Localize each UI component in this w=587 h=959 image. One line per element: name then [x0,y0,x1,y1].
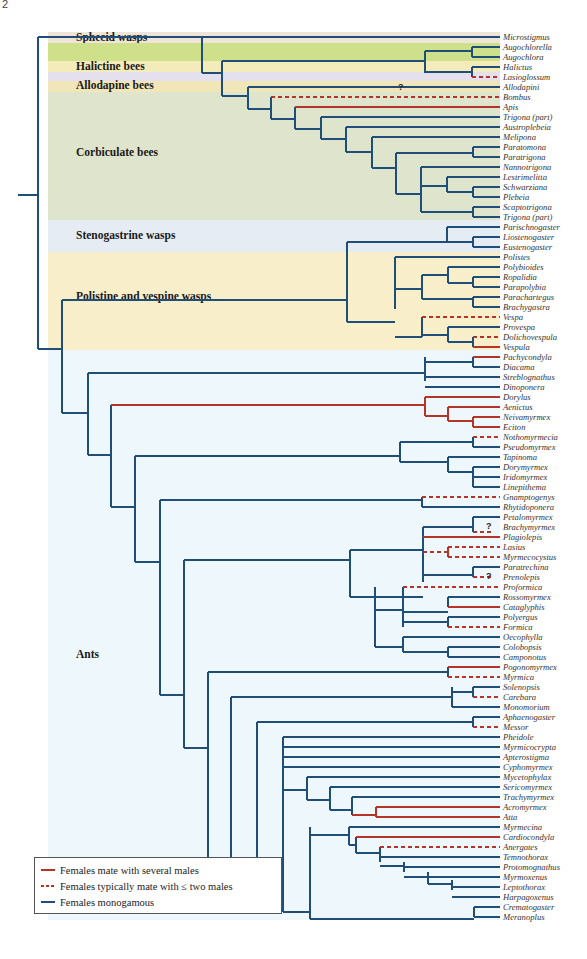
question-mark: ? [486,571,492,581]
taxon-label: Melipona [503,132,536,142]
taxon-label: Plebeia [503,192,529,202]
taxon-label: Pachycondyla [503,352,552,362]
taxon-label: Polybioides [503,262,544,272]
taxon-label: Dorymyrmex [503,462,548,472]
taxon-label: Neivamyrmex [503,412,550,422]
taxon-label: Polyergus [503,612,538,622]
taxon-label: Myrmica [503,672,534,682]
taxon-label: Mycetophylax [503,772,551,782]
taxon-label: Myrmecocystus [503,552,556,562]
taxon-label: Harpagoxenus [503,892,554,902]
taxon-label: Parapolybia [503,282,546,292]
taxon-label: Linepithema [503,482,546,492]
taxon-label: Pogonomyrmex [503,662,557,672]
taxon-label: Nannotrigona [503,162,551,172]
taxon-label: Augochlorella [503,42,552,52]
taxon-label: Nothomyrmecia [503,432,558,442]
phylogenetic-tree [0,0,587,959]
taxon-label: Streblognathus [503,372,555,382]
taxon-label: Eustenogaster [503,242,552,252]
taxon-label: Solenopsis [503,682,540,692]
taxon-label: Cataglyphis [503,602,545,612]
taxon-label: Halictus [503,62,532,72]
taxon-label: Rhytidoponera [503,502,554,512]
taxon-label: Paratrechina [503,562,549,572]
taxon-label: Plagiolepis [503,532,542,542]
legend-label: Females typically mate with ≤ two males [60,881,233,892]
legend-item-monogamous: Females monogamous [41,895,154,909]
taxon-label: Pheidole [503,732,534,742]
taxon-label: Microstigmus [503,32,550,42]
taxon-label: Apterostigma [503,752,549,762]
legend-label: Females monogamous [60,897,154,908]
taxon-label: Ropalidia [503,272,537,282]
taxon-label: Protomognathus [503,862,560,872]
taxon-label: Parachartegus [503,292,554,302]
legend-label: Females mate with several males [60,865,199,876]
taxon-label: Trigona (part) [503,112,552,122]
taxon-label: Provespa [503,322,535,332]
taxon-label: Paratrigona [503,152,546,162]
solid-red-line-icon [41,868,55,872]
taxon-label: Prenolepis [503,572,540,582]
legend-item-several-males: Females mate with several males [41,863,199,877]
taxon-label: Lestrimelitta [503,172,547,182]
legend: Females mate with several males Females … [34,857,282,914]
taxon-label: Sericomyrmex [503,782,552,792]
taxon-label: Anergates [503,842,538,852]
taxon-label: Temnothorax [503,852,548,862]
dashed-red-line-icon [41,884,55,888]
taxon-label: Vespula [503,342,530,352]
taxon-label: Tapinoma [503,452,537,462]
taxon-label: Petalomyrmex [503,512,553,522]
taxon-label: Cardiocondyla [503,832,554,842]
taxon-label: Augochlora [503,52,544,62]
taxon-label: Aphaenogaster [503,712,555,722]
taxon-label: Paratomona [503,142,546,152]
taxon-label: Carebara [503,692,536,702]
taxon-label: Trachymyrmex [503,792,554,802]
taxon-label: Proformica [503,582,542,592]
solid-blue-line-icon [41,900,55,904]
taxon-label: Myrmicocrypta [503,742,556,752]
taxon-label: Lasioglossum [503,72,550,82]
taxon-label: Rossomyrmex [503,592,551,602]
taxon-label: Dorylus [503,392,531,402]
taxon-label: Bombus [503,92,531,102]
taxon-label: Aenictus [503,402,533,412]
taxon-label: Messor [503,722,528,732]
taxon-label: Crematogaster [503,902,554,912]
taxon-label: Pseudomyrmex [503,442,556,452]
taxon-label: Allodapini [503,82,539,92]
taxon-label: Dinoponera [503,382,545,392]
taxon-label: Scaptotrigona [503,202,552,212]
taxon-label: Lasius [503,542,525,552]
taxon-label: Polistes [503,252,530,262]
question-mark: ? [398,82,404,92]
taxon-label: Brachygastra [503,302,550,312]
taxon-label: Trigona (part) [503,212,552,222]
taxon-label: Iridomyrmex [503,472,547,482]
taxon-label: Oecophylla [503,632,543,642]
taxon-label: Gnamptogenys [503,492,555,502]
taxon-label: Brachymyrmex [503,522,555,532]
taxon-label: Liostenogaster [503,232,554,242]
taxon-label: Vespa [503,312,523,322]
taxon-label: Austroplebeia [503,122,551,132]
taxon-label: Monomorium [503,702,550,712]
taxon-label: Schwarziana [503,182,547,192]
taxon-label: Acromyrmex [503,802,547,812]
taxon-label: Myrmoxenus [503,872,547,882]
taxon-label: Leptothorax [503,882,545,892]
taxon-label: Parischnogaster [503,222,560,232]
legend-item-two-males: Females typically mate with ≤ two males [41,879,233,893]
taxon-label: Dolichovespula [503,332,557,342]
taxon-label: Colobopsis [503,642,542,652]
taxon-label: Atta [503,812,517,822]
question-mark: ? [486,521,492,531]
taxon-label: Meranoplus [503,912,545,922]
taxon-label: Apis [503,102,518,112]
taxon-label: Diacama [503,362,535,372]
taxon-label: Cyphomyrmex [503,762,553,772]
taxon-label: Formica [503,622,533,632]
